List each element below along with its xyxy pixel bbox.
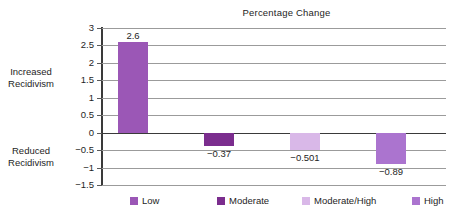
y-axis-tick-label: 3 <box>54 23 94 33</box>
legend-swatch-icon <box>412 197 420 205</box>
plot-area <box>102 28 446 185</box>
gridline <box>102 28 446 29</box>
annotation-increased-recidivism: Increased Recidivism <box>2 66 60 89</box>
gridline <box>102 98 446 99</box>
legend-swatch-icon <box>217 197 225 205</box>
chart-title: Percentage Change <box>0 7 453 18</box>
y-axis-tick-label: −1.5 <box>54 180 94 190</box>
gridline <box>102 63 446 64</box>
annotation-reduced-line1: Reduced <box>2 145 60 157</box>
percentage-change-bar-chart: Percentage Change Increased Recidivism R… <box>0 0 453 224</box>
bar-value-label: −0.37 <box>189 148 249 159</box>
y-axis-tick-label: 0 <box>54 128 94 138</box>
legend-item-label: Moderate <box>229 196 269 206</box>
gridline <box>102 45 446 46</box>
y-axis-tick-label: 2 <box>54 58 94 68</box>
bar-value-label: 2.6 <box>103 30 163 41</box>
y-axis-tick-label: 1.5 <box>54 75 94 85</box>
bar-value-label: −0.89 <box>361 166 421 177</box>
annotation-reduced-line2: Recidivism <box>2 157 60 169</box>
legend-item-high[interactable]: High <box>412 196 444 206</box>
y-axis-tick-label: −1 <box>54 163 94 173</box>
bar-moderate <box>204 133 234 146</box>
gridline <box>102 80 446 81</box>
legend-item-label: High <box>424 196 444 206</box>
annotation-reduced-recidivism: Reduced Recidivism <box>2 145 60 168</box>
chart-legend: LowModerateModerate/HighHigh <box>102 196 446 212</box>
legend-item-moderate-high[interactable]: Moderate/High <box>302 196 376 206</box>
y-axis-tick-label: 1 <box>54 93 94 103</box>
gridline <box>102 185 446 186</box>
bar-moderate-high <box>290 133 320 150</box>
y-axis-tick-label: 0.5 <box>54 110 94 120</box>
legend-item-label: Moderate/High <box>314 196 376 206</box>
chart-title-text: Percentage Change <box>243 7 331 18</box>
bar-value-label: −0.501 <box>275 152 335 163</box>
legend-swatch-icon <box>130 197 138 205</box>
gridline <box>102 115 446 116</box>
y-axis-tick-label: −0.5 <box>54 145 94 155</box>
legend-item-low[interactable]: Low <box>130 196 159 206</box>
legend-item-label: Low <box>142 196 159 206</box>
legend-swatch-icon <box>302 197 310 205</box>
annotation-increased-line1: Increased <box>2 66 60 78</box>
legend-item-moderate[interactable]: Moderate <box>217 196 269 206</box>
bar-high <box>376 133 406 164</box>
y-axis-tick-label: 2.5 <box>54 40 94 50</box>
annotation-increased-line2: Recidivism <box>2 78 60 90</box>
bar-low <box>118 42 148 133</box>
